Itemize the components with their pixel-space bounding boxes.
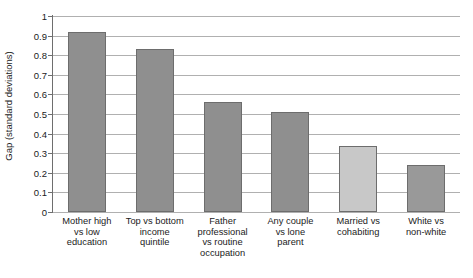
x-axis-label: Mother highvs loweducation bbox=[53, 216, 121, 248]
bar bbox=[339, 146, 377, 212]
x-axis-label-line: Top vs bottom bbox=[121, 216, 189, 227]
y-tick-label: 0.1 bbox=[4, 187, 48, 198]
gridline bbox=[53, 173, 460, 174]
x-axis-label-line: Mother high bbox=[53, 216, 121, 227]
gridline bbox=[53, 134, 460, 135]
x-axis-label-line: vs lone bbox=[257, 227, 325, 238]
x-axis-label-line: education bbox=[53, 237, 121, 248]
x-axis-label-line: Father bbox=[189, 216, 257, 227]
bar bbox=[204, 102, 242, 212]
bar bbox=[136, 49, 174, 212]
y-tick-label: 0.4 bbox=[4, 128, 48, 139]
gridline bbox=[53, 192, 460, 193]
x-axis-label-line: vs low bbox=[53, 227, 121, 238]
y-tick-label: 1 bbox=[4, 11, 48, 22]
y-tick-label: 0.9 bbox=[4, 30, 48, 41]
bar bbox=[271, 112, 309, 212]
x-axis-label-line: vs routine bbox=[189, 237, 257, 248]
x-axis-label: Any couplevs loneparent bbox=[257, 216, 325, 248]
gridline bbox=[53, 114, 460, 115]
gridline bbox=[53, 153, 460, 154]
x-axis-label-line: cohabiting bbox=[324, 227, 392, 238]
bar-chart: Gap (standard deviations) 10.90.80.70.60… bbox=[0, 0, 473, 278]
y-tick-label: 0.3 bbox=[4, 148, 48, 159]
plot-area bbox=[53, 16, 460, 212]
x-axis-label-line: income bbox=[121, 227, 189, 238]
gridline bbox=[53, 94, 460, 95]
y-tick-label: 0.8 bbox=[4, 50, 48, 61]
y-tick-label: 0.6 bbox=[4, 89, 48, 100]
x-axis-label: White vsnon-white bbox=[392, 216, 460, 237]
x-axis-label-line: non-white bbox=[392, 227, 460, 238]
bar bbox=[407, 165, 445, 212]
x-axis-label-line: quintile bbox=[121, 237, 189, 248]
x-axis-label-line: White vs bbox=[392, 216, 460, 227]
x-axis-label-line: Married vs bbox=[324, 216, 392, 227]
y-tick-label: 0 bbox=[4, 207, 48, 218]
y-tick-label: 0.7 bbox=[4, 69, 48, 80]
gridline bbox=[53, 55, 460, 56]
gridline bbox=[53, 16, 460, 17]
gridline bbox=[53, 75, 460, 76]
bar bbox=[68, 32, 106, 212]
gridline bbox=[53, 36, 460, 37]
y-tick-label: 0.2 bbox=[4, 167, 48, 178]
x-axis-label-line: professional bbox=[189, 227, 257, 238]
x-axis-label-line: Any couple bbox=[257, 216, 325, 227]
x-axis-label: Top vs bottomincomequintile bbox=[121, 216, 189, 248]
x-axis-label-line: occupation bbox=[189, 248, 257, 259]
x-axis-label: Fatherprofessionalvs routineoccupation bbox=[189, 216, 257, 258]
gridline bbox=[53, 212, 460, 213]
x-axis-label: Married vscohabiting bbox=[324, 216, 392, 237]
x-axis-label-line: parent bbox=[257, 237, 325, 248]
y-tick-label: 0.5 bbox=[4, 109, 48, 120]
